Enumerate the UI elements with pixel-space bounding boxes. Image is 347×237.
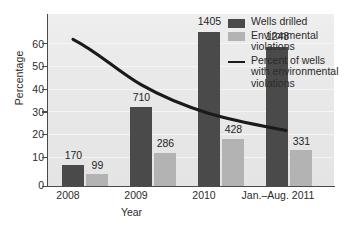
legend-dark-square-icon [228,19,245,28]
chart-legend: Wells drilled Environmental violations P… [228,16,346,91]
x-tick-2008: 2008 [38,189,98,201]
y-tick-60: 60 [24,39,44,49]
legend-label-environmental-violations: Environmental violations [251,30,343,53]
legend-label-wells-drilled: Wells drilled [251,16,307,28]
x-tick-2010: 2010 [174,189,234,201]
clipped-caption-text [22,228,342,237]
x-axis-title: Year [0,206,305,218]
y-tick-20: 20 [24,129,44,139]
legend-line-icon [228,57,245,66]
x-tick-2011: Jan.–Aug. 2011 [227,189,329,201]
x-tick-2009: 2009 [106,189,166,201]
legend-item-wells-drilled: Wells drilled [228,16,346,28]
legend-light-square-icon [228,32,245,41]
y-tick-50: 50 [24,61,44,71]
legend-item-percent-line: Percent of wells with environmental viol… [228,55,346,90]
legend-item-environmental-violations: Environmental violations [228,30,346,53]
y-tick-30: 30 [24,107,44,117]
legend-label-percent-line: Percent of wells with environmental viol… [251,55,343,90]
y-axis-tick-labels: 60 50 40 30 20 10 0 [20,0,44,237]
x-axis-line [47,186,335,187]
y-tick-10: 10 [24,152,44,162]
y-tick-40: 40 [24,84,44,94]
chart-figure: Percentage 60 50 40 30 20 10 0 170 99 71 [0,0,347,237]
